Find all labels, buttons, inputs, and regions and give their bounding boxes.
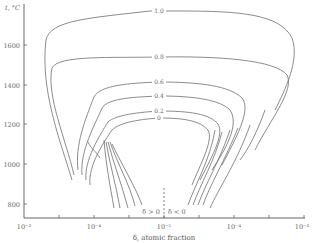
x-tick-1e-3-right: 10⁻³ <box>295 223 310 231</box>
x-tick-1e-4-right: 10⁻⁴ <box>227 223 242 231</box>
curve-1.0 <box>45 11 294 180</box>
y-tick-800: 800 <box>8 201 20 209</box>
y-tick-1600: 1600 <box>3 42 20 50</box>
curve-label-0.4: 0.4 <box>154 92 164 99</box>
y-tick-1400: 1400 <box>3 82 20 90</box>
curve-label-0: 0 <box>157 114 161 121</box>
curve-0.2 <box>86 111 220 180</box>
annotation-delta-positive: δ > 0 <box>142 208 160 216</box>
y-tick-1000: 1000 <box>3 161 20 169</box>
y-axis-label: t, °C <box>5 4 20 12</box>
curve-label-0.8: 0.8 <box>154 53 164 60</box>
y-tick-1200: 1200 <box>3 121 20 129</box>
curve-label-0.2: 0.2 <box>154 107 164 114</box>
lower-left-curves <box>88 140 142 208</box>
annotation-delta-negative: δ < 0 <box>168 208 186 216</box>
x-axis-label: δ, atomic fraction <box>133 234 196 242</box>
chart: 1600 1400 1200 1000 800 t, °C 10⁻³ 10⁻⁴ … <box>0 0 316 243</box>
x-tick-1e-3-left: 10⁻³ <box>17 223 32 231</box>
curve-label-1.0: 1.0 <box>154 7 164 14</box>
x-tick-1e-4-left: 10⁻⁴ <box>87 223 102 231</box>
lower-right-curves <box>188 110 265 208</box>
x-tick-1e-5: 10⁻⁵ <box>157 223 172 231</box>
curve-label-0.6: 0.6 <box>154 78 164 85</box>
